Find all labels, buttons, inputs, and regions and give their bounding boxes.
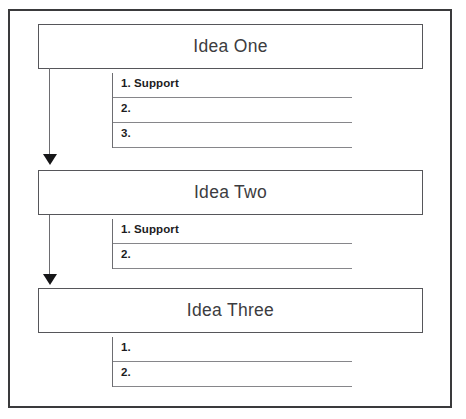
support-rule	[113, 386, 352, 387]
arrow-stem	[49, 215, 50, 276]
arrow-head	[43, 274, 57, 285]
support-row[interactable]: 1.	[113, 337, 352, 362]
idea-box-two[interactable]: Idea Two	[38, 170, 423, 215]
support-row[interactable]: 2.	[113, 244, 352, 269]
support-row-number: 1.	[121, 341, 131, 353]
support-rule	[113, 268, 352, 269]
support-group-one: 1. Support 2. 3.	[112, 73, 352, 148]
arrow-head	[43, 154, 57, 165]
support-row-number: 3.	[121, 127, 131, 139]
support-rule	[113, 147, 352, 148]
idea-box-three-label: Idea Three	[187, 300, 274, 321]
support-group-three: 1. 2.	[112, 337, 352, 387]
support-row[interactable]: 1. Support	[113, 73, 352, 98]
idea-box-one-label: Idea One	[193, 36, 267, 57]
support-row[interactable]: 2.	[113, 362, 352, 387]
idea-box-two-label: Idea Two	[194, 182, 267, 203]
support-row-number: 2.	[121, 102, 131, 114]
support-row[interactable]: 3.	[113, 123, 352, 148]
support-row-number: 1. Support	[121, 77, 179, 89]
support-row-number: 2.	[121, 248, 131, 260]
support-row-number: 2.	[121, 366, 131, 378]
support-group-two: 1. Support 2.	[112, 219, 352, 269]
idea-box-three[interactable]: Idea Three	[38, 288, 423, 333]
idea-box-one[interactable]: Idea One	[38, 24, 423, 69]
support-row-number: 1. Support	[121, 223, 179, 235]
worksheet-canvas: Idea One 1. Support 2. 3. Idea Two 1. Su…	[0, 0, 466, 419]
arrow-stem	[49, 68, 50, 156]
support-row[interactable]: 1. Support	[113, 219, 352, 244]
support-row[interactable]: 2.	[113, 98, 352, 123]
